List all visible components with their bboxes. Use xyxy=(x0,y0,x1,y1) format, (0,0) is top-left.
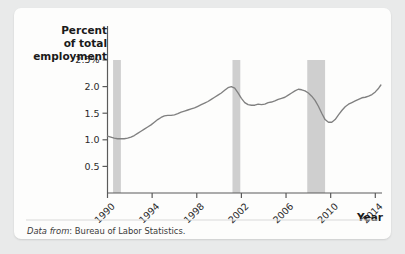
x-axis-tick-label: 1990 xyxy=(92,201,117,226)
x-axis-tick-label: 2010 xyxy=(315,201,340,226)
x-axis-title: Year xyxy=(356,211,384,223)
line-chart-svg: 2.5%2.01.51.00.5 19901994199820022006201… xyxy=(14,8,391,239)
source-note-prefix: Data from xyxy=(27,226,69,236)
recession-band xyxy=(232,60,240,193)
y-axis-tick-label: 1.0 xyxy=(84,134,99,145)
y-axis-tick-label: 1.5 xyxy=(84,108,99,119)
x-axis-tick-label: 2006 xyxy=(271,201,296,226)
recession-band xyxy=(113,60,121,193)
y-axis-tick-label: 2.0 xyxy=(84,81,99,92)
x-axis-tick-label: 2002 xyxy=(226,201,251,226)
recession-band xyxy=(307,60,325,193)
y-axis-title-line3: employment xyxy=(33,50,107,62)
y-axis-title-line1: Percent xyxy=(61,24,107,36)
y-axis-ticks-group: 2.5%2.01.51.00.5 xyxy=(75,54,107,171)
source-note-text: : Bureau of Labor Statistics. xyxy=(69,226,185,236)
axes-group xyxy=(108,26,383,193)
recession-bands-group xyxy=(113,60,325,193)
data-series-line xyxy=(108,85,381,139)
x-axis-tick-label: 1994 xyxy=(137,201,162,226)
chart-canvas: 2.5%2.01.51.00.5 19901994199820022006201… xyxy=(14,8,391,239)
y-axis-title-line2: of total xyxy=(64,37,107,49)
x-axis-tick-label: 1998 xyxy=(181,201,206,226)
x-axis-ticks-group: 1990199419982002200620102014 xyxy=(92,193,385,226)
source-note: Data from: Bureau of Labor Statistics. xyxy=(27,226,185,236)
figure-card: 2.5%2.01.51.00.5 19901994199820022006201… xyxy=(14,8,391,239)
y-axis-tick-label: 0.5 xyxy=(84,161,99,172)
